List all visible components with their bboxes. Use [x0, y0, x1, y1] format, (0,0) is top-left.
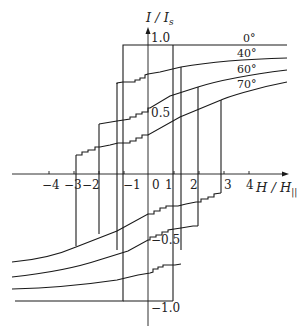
curve-70deg: [12, 82, 287, 262]
angle-labels: 0° 40° 60° 70°: [237, 32, 257, 91]
y-tick-m1: −1.0: [151, 301, 180, 315]
y-tick-1: 1.0: [151, 31, 170, 45]
angle-label-60: 60°: [237, 63, 257, 76]
x-axis-arrow-icon: [282, 172, 289, 177]
svg-text:4: 4: [246, 178, 254, 192]
y-tick-m05: −0.5: [151, 233, 180, 247]
svg-text:−2: −2: [82, 178, 100, 192]
y-axis-arrow-icon: [146, 27, 151, 34]
svg-text:1: 1: [165, 178, 173, 192]
svg-text:0: 0: [152, 178, 160, 192]
svg-text:−1: −1: [123, 178, 141, 192]
angle-label-70: 70°: [237, 78, 257, 91]
svg-text:3: 3: [224, 178, 232, 192]
svg-text:−4: −4: [42, 178, 60, 192]
svg-text:2: 2: [190, 178, 198, 192]
svg-text:−3: −3: [64, 178, 82, 192]
y-axis-label: I / Is: [145, 10, 174, 27]
y-tick-05: 0.5: [151, 106, 170, 120]
x-axis-label: H / H||: [255, 180, 297, 198]
curve-60deg: [12, 70, 287, 277]
angle-label-0: 0°: [243, 32, 256, 45]
curve-40deg: [12, 58, 287, 289]
angle-label-40: 40°: [237, 47, 257, 60]
hysteresis-chart: I / Is H / H|| 1.0 0.5 −0.5 −1.0 −4 −3 −…: [0, 0, 298, 329]
